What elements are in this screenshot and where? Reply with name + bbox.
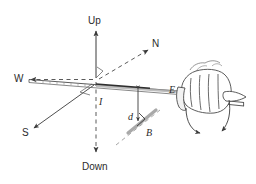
figure-canvas: Up Down N S W E I d B [0,0,256,184]
label-south: S [22,128,29,138]
axis-north [99,50,148,79]
right-angle-marks [80,67,103,95]
diagram-svg [0,0,256,184]
label-up: Up [88,16,101,26]
label-down: Down [82,162,108,172]
axis-south [34,85,94,128]
label-west: W [14,74,23,84]
label-east: E [169,84,175,95]
label-current-I: I [99,96,102,107]
label-distance-d: d [128,111,133,122]
label-north: N [152,39,159,49]
label-field-B: B [146,127,152,138]
